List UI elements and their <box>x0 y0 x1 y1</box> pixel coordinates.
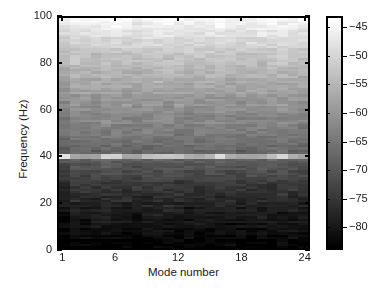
x-tick-mark-top <box>177 16 179 21</box>
colorbar-tick-mark-left <box>326 113 330 114</box>
x-tick-mark-top <box>240 16 242 21</box>
colorbar-tick-label: −65 <box>349 136 368 147</box>
x-tick-label: 24 <box>285 252 325 263</box>
colorbar-tick-mark <box>343 113 347 114</box>
colorbar-tick-mark <box>343 56 347 57</box>
colorbar-tick-label: −70 <box>349 164 368 175</box>
colorbar-tick-mark-left <box>326 142 330 143</box>
colorbar-tick-label: −45 <box>349 21 368 32</box>
x-tick-mark <box>304 245 306 250</box>
colorbar-tick-mark-left <box>326 27 330 28</box>
heatmap-image <box>59 18 308 248</box>
x-tick-label: 6 <box>95 252 135 263</box>
colorbar-tick-mark-left <box>326 227 330 228</box>
y-axis-title: Frequency (Hz) <box>17 64 29 214</box>
x-axis-title: Mode number <box>57 266 310 278</box>
x-tick-mark-top <box>304 16 306 21</box>
colorbar-tick-mark <box>343 170 347 171</box>
y-tick-mark-right <box>305 202 310 204</box>
colorbar-tick-mark-left <box>326 84 330 85</box>
colorbar-tick-mark-left <box>326 170 330 171</box>
y-tick-label: 20 <box>40 197 52 208</box>
x-tick-mark-top <box>114 16 116 21</box>
x-tick-mark <box>240 245 242 250</box>
y-tick-mark <box>57 62 62 64</box>
colorbar-tick-mark <box>343 227 347 228</box>
colorbar-tick-label: −60 <box>349 107 368 118</box>
x-tick-mark-top <box>61 16 63 21</box>
y-tick-label: 40 <box>40 150 52 161</box>
figure-container: Frequency (Hz) Mode number 020406080100 … <box>0 0 372 292</box>
colorbar-tick-mark <box>343 142 347 143</box>
y-tick-mark-right <box>305 15 310 17</box>
y-tick-mark <box>57 202 62 204</box>
y-tick-mark <box>57 155 62 157</box>
colorbar-tick-mark <box>343 84 347 85</box>
x-tick-label: 1 <box>42 252 82 263</box>
x-tick-mark <box>61 245 63 250</box>
colorbar-tick-label: −55 <box>349 78 368 89</box>
y-tick-mark-right <box>305 62 310 64</box>
y-tick-label: 80 <box>40 57 52 68</box>
colorbar-gradient <box>328 18 341 248</box>
colorbar-tick-label: −80 <box>349 221 368 232</box>
colorbar-tick-mark-left <box>326 56 330 57</box>
y-tick-mark-right <box>305 155 310 157</box>
colorbar-tick-label: −50 <box>349 50 368 61</box>
colorbar <box>326 16 343 250</box>
x-tick-label: 18 <box>221 252 261 263</box>
colorbar-tick-label: −75 <box>349 193 368 204</box>
colorbar-tick-mark <box>343 199 347 200</box>
y-tick-mark <box>57 109 62 111</box>
y-tick-label: 60 <box>40 104 52 115</box>
x-tick-mark <box>177 245 179 250</box>
x-tick-mark <box>114 245 116 250</box>
y-tick-mark-right <box>305 109 310 111</box>
colorbar-tick-mark-left <box>326 199 330 200</box>
y-tick-label: 100 <box>34 10 52 21</box>
x-tick-label: 12 <box>158 252 198 263</box>
heatmap-plot-area <box>57 16 310 250</box>
colorbar-tick-mark <box>343 27 347 28</box>
